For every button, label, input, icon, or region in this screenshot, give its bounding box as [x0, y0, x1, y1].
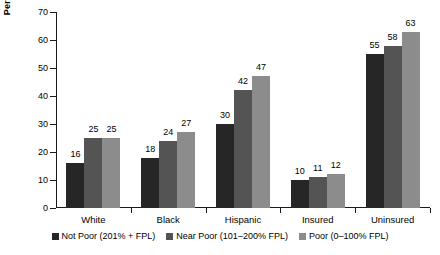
bar: 58	[384, 46, 402, 208]
y-tick	[50, 208, 56, 209]
bar-group-bars: 182427	[131, 12, 206, 208]
x-category-label: White	[56, 214, 131, 225]
bar-value-label: 30	[220, 111, 230, 120]
bar-value-label: 63	[406, 19, 416, 28]
bar: 18	[141, 158, 159, 208]
bar-group: 555863Uninsured	[355, 12, 430, 208]
bar-value-label: 24	[163, 128, 173, 137]
x-tick	[280, 208, 281, 213]
bar-group-bars: 304247	[206, 12, 281, 208]
x-category-label: Black	[131, 214, 206, 225]
y-axis-title: Percentage	[2, 0, 12, 50]
bar-value-label: 12	[331, 161, 341, 170]
legend-item: Near Poor (101–200% FPL)	[166, 231, 288, 241]
bar-value-label: 10	[295, 167, 305, 176]
legend-item: Poor (0–100% FPL)	[299, 231, 389, 241]
x-tick	[355, 208, 356, 213]
bar: 12	[327, 174, 345, 208]
bar-group: 162525White	[56, 12, 131, 208]
bar-group-bars: 555863	[355, 12, 430, 208]
legend-swatch-icon	[166, 233, 173, 240]
bar-value-label: 47	[256, 63, 266, 72]
bar-value-label: 25	[106, 125, 116, 134]
bar-group: 304247Hispanic	[206, 12, 281, 208]
bar: 25	[84, 138, 102, 208]
x-tick	[430, 208, 431, 213]
y-tick-label: 10	[22, 176, 48, 185]
legend-swatch-icon	[52, 233, 59, 240]
bar-value-label: 58	[388, 33, 398, 42]
y-tick-label: 30	[22, 120, 48, 129]
bar: 55	[366, 54, 384, 208]
bar-value-label: 16	[70, 150, 80, 159]
legend-label: Near Poor (101–200% FPL)	[176, 231, 288, 241]
x-category-label: Uninsured	[355, 214, 430, 225]
bar: 27	[177, 132, 195, 208]
bar-group-bars: 101112	[280, 12, 355, 208]
bar-chart: Percentage 010203040506070 162525White18…	[0, 0, 440, 255]
bar: 11	[309, 177, 327, 208]
x-tick	[131, 208, 132, 213]
x-category-label: Insured	[280, 214, 355, 225]
legend-label: Not Poor (201% + FPL)	[62, 231, 156, 241]
bar-group: 101112Insured	[280, 12, 355, 208]
bar: 47	[252, 76, 270, 208]
bar: 25	[102, 138, 120, 208]
bar-group: 182427Black	[131, 12, 206, 208]
bar-value-label: 11	[313, 164, 322, 173]
y-tick-label: 40	[22, 92, 48, 101]
legend-label: Poor (0–100% FPL)	[309, 231, 389, 241]
bar: 30	[216, 124, 234, 208]
y-tick-label: 60	[22, 36, 48, 45]
bar-value-label: 18	[145, 145, 155, 154]
bar: 63	[402, 32, 420, 208]
bar-value-label: 55	[370, 41, 380, 50]
y-tick-label: 20	[22, 148, 48, 157]
bar-value-label: 42	[238, 77, 248, 86]
x-tick	[206, 208, 207, 213]
legend-swatch-icon	[299, 233, 306, 240]
bar: 24	[159, 141, 177, 208]
bar: 42	[234, 90, 252, 208]
chart-legend: Not Poor (201% + FPL)Near Poor (101–200%…	[0, 231, 440, 241]
bar: 10	[291, 180, 309, 208]
bar-group-bars: 162525	[56, 12, 131, 208]
y-tick-label: 70	[22, 8, 48, 17]
legend-item: Not Poor (201% + FPL)	[52, 231, 156, 241]
bar-value-label: 25	[88, 125, 98, 134]
x-category-label: Hispanic	[206, 214, 281, 225]
y-tick-label: 0	[22, 204, 48, 213]
plot-area: 010203040506070 162525White182427Black30…	[56, 12, 430, 208]
bar: 16	[66, 163, 84, 208]
y-tick-label: 50	[22, 64, 48, 73]
bar-value-label: 27	[181, 119, 191, 128]
